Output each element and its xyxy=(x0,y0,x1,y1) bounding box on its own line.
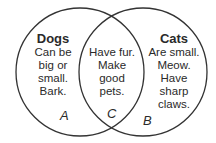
cats-line: Are small. xyxy=(144,46,204,59)
label-c: C xyxy=(107,106,116,121)
cats-title: Cats xyxy=(144,31,204,46)
cats-line: Meow. xyxy=(144,59,204,72)
dogs-line: small. xyxy=(30,72,76,85)
cats-region: Cats Are small. Meow. Have sharp claws. xyxy=(144,31,204,111)
cats-line: sharp xyxy=(144,85,204,98)
dogs-region: Dogs Can be big or small. Bark. xyxy=(30,31,76,98)
intersection-line: good xyxy=(84,72,140,85)
dogs-line: Can be xyxy=(30,46,76,59)
label-a: A xyxy=(60,108,69,123)
intersection-line: Have fur. xyxy=(84,46,140,59)
dogs-title: Dogs xyxy=(30,31,76,46)
intersection-line: pets. xyxy=(84,85,140,98)
label-b: B xyxy=(143,113,152,128)
intersection-line: Make xyxy=(84,59,140,72)
dogs-line: big or xyxy=(30,59,76,72)
cats-line: claws. xyxy=(144,98,204,111)
cats-line: Have xyxy=(144,72,204,85)
dogs-line: Bark. xyxy=(30,85,76,98)
intersection-region: Have fur. Make good pets. xyxy=(84,46,140,98)
